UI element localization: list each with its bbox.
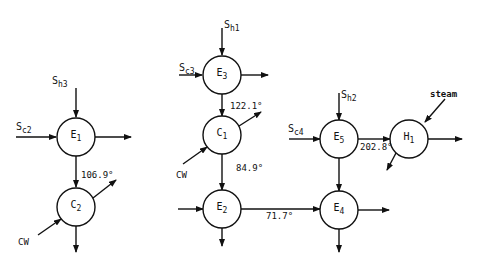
- temp-e1-c2: 106.9°: [81, 170, 114, 180]
- node-label-e5: E5: [334, 132, 345, 146]
- stream-cw-c1-in: [183, 147, 207, 164]
- label-cw-middle: CW: [176, 170, 187, 180]
- stream-cw-c2-in: [38, 219, 61, 235]
- temp-c1-e2: 84.9°: [236, 163, 263, 173]
- temp-e2-e4: 71.7°: [266, 211, 293, 221]
- node-label-c1: C1: [217, 128, 228, 142]
- node-label-h1: H1: [404, 132, 415, 146]
- stream-label-sc3: Sc3: [179, 63, 195, 77]
- stream-label-sc2: Sc2: [16, 122, 32, 136]
- label-cw-left: CW: [18, 237, 29, 247]
- stream-label-sh2: Sh2: [341, 90, 357, 104]
- stream-label-sh1: Sh1: [224, 20, 240, 34]
- label-steam: steam: [430, 89, 457, 99]
- stream-c2-cw-out: [93, 180, 116, 198]
- temp-e3-c1: 122.1°: [230, 101, 263, 111]
- stream-steam-in: [425, 99, 445, 122]
- temp-e5-h1: 202.8°: [360, 142, 393, 152]
- node-label-e4: E4: [334, 203, 345, 217]
- stream-label-sh3: Sh3: [52, 76, 68, 90]
- stream-label-sc4: Sc4: [288, 124, 304, 138]
- node-label-e2: E2: [217, 202, 228, 216]
- stream-c1-cw-out: [239, 112, 261, 126]
- node-label-e3: E3: [217, 68, 228, 82]
- stream-h1-steam-out: [387, 153, 396, 170]
- node-label-e1: E1: [71, 130, 82, 144]
- node-label-c2: C2: [71, 200, 82, 214]
